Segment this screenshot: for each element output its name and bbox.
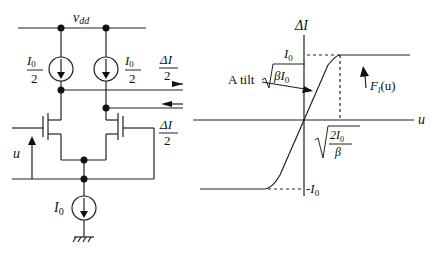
- svg-text:β: β: [334, 145, 341, 159]
- svg-text:I0: I0: [124, 53, 134, 69]
- svg-text:2: 2: [164, 68, 171, 83]
- transfer-curve-chart: [193, 35, 414, 196]
- differential-pair-figure: vdd I0 2 I0 2 ΔI 2 ΔI 2 u I0 ΔI u I0 -I0…: [0, 0, 434, 254]
- svg-text:I0: I0: [26, 53, 36, 69]
- delta-i-top-label: ΔI: [159, 52, 173, 67]
- svg-text:βI0: βI0: [273, 68, 290, 85]
- svg-text:2: 2: [129, 71, 136, 86]
- input-arrow-icon: [28, 136, 36, 145]
- svg-text:2: 2: [31, 71, 38, 86]
- svg-text:I0: I0: [283, 46, 293, 63]
- curve-label: Fl(u): [369, 78, 396, 95]
- svg-text:u: u: [418, 112, 425, 127]
- vdd-label: vdd: [73, 10, 90, 26]
- svg-text:2: 2: [164, 133, 171, 148]
- u-label: u: [13, 146, 20, 161]
- svg-text:A tilt: A tilt: [228, 72, 255, 87]
- svg-text:ΔI: ΔI: [294, 18, 309, 33]
- arrow-left-icon: [161, 101, 172, 107]
- svg-text:-I0: -I0: [306, 181, 320, 198]
- svg-text:2I0: 2I0: [330, 128, 344, 144]
- tail-label: I0: [53, 200, 64, 217]
- delta-i-bottom-label: ΔI: [159, 117, 173, 132]
